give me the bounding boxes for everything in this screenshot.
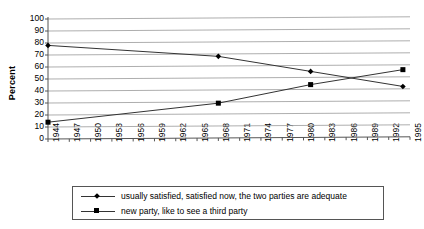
legend-item-label: new party, like to see a third party: [121, 206, 247, 217]
gridline: [48, 53, 410, 55]
chart-container: Percent 1009080706050403020100 194419471…: [0, 0, 424, 229]
x-axis-line: [48, 137, 410, 139]
gridline: [48, 89, 410, 91]
legend-item-satisfied: usually satisfied, satisfied now, the tw…: [73, 189, 383, 204]
diamond-marker-icon: [94, 193, 100, 199]
square-marker-icon: [216, 101, 221, 106]
gridline: [48, 29, 410, 31]
legend-item-new-party: new party, like to see a third party: [73, 204, 383, 219]
square-marker-icon: [400, 67, 405, 72]
gridline: [48, 113, 410, 115]
square-marker-icon: [46, 120, 51, 125]
diamond-marker-icon: [216, 54, 222, 60]
gridline: [48, 125, 410, 127]
gridline: [48, 65, 410, 67]
square-marker-icon: [308, 82, 313, 87]
gridline: [48, 17, 410, 19]
gridline: [48, 41, 410, 43]
legend-item-label: usually satisfied, satisfied now, the tw…: [121, 191, 347, 202]
square-marker-icon: [94, 208, 99, 213]
diamond-marker-icon: [400, 84, 406, 90]
chart-legend: usually satisfied, satisfied now, the tw…: [72, 186, 384, 220]
diamond-marker-icon: [308, 69, 314, 75]
